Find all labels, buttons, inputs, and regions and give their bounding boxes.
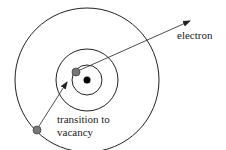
ejection-arrow xyxy=(80,21,190,70)
atomic-diagram: electron transition to vacancy xyxy=(0,0,226,150)
atom-shells-svg xyxy=(0,0,226,150)
ejected-electron-vacancy xyxy=(72,68,80,76)
outer-shell-electron xyxy=(33,126,41,134)
electron-label: electron xyxy=(177,29,212,42)
transition-label-line1: transition to xyxy=(57,113,110,126)
transition-label: transition to vacancy xyxy=(57,113,110,139)
transition-label-line2: vacancy xyxy=(57,126,110,139)
nucleus xyxy=(84,77,91,84)
